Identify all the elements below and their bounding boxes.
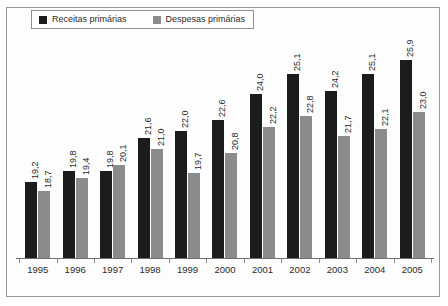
bar — [375, 129, 387, 258]
bar-column: 20,1 — [113, 165, 125, 258]
bar-value-label: 19,7 — [194, 152, 203, 170]
bar-value-label: 19,8 — [69, 150, 78, 168]
bar-group: 22,019,7 — [169, 36, 206, 258]
bar-value-label: 22,2 — [269, 106, 278, 124]
bar — [250, 94, 262, 258]
bar — [413, 112, 425, 258]
bar-column: 24,0 — [250, 94, 262, 258]
bar-column: 22,2 — [263, 127, 275, 258]
bar — [138, 138, 150, 258]
legend-item: Receitas primárias — [39, 15, 127, 24]
axis-label-1999: 1999 — [169, 263, 206, 276]
bar-column: 22,0 — [175, 131, 187, 258]
bar — [188, 173, 200, 259]
bar-value-label: 25,1 — [293, 54, 302, 72]
bar-column: 18,7 — [38, 191, 50, 258]
legend-item-label: Receitas primárias — [52, 15, 127, 24]
bar — [263, 127, 275, 258]
bar-value-label: 22,6 — [218, 99, 227, 117]
bar — [76, 178, 88, 258]
bar-value-label: 20,1 — [119, 145, 128, 163]
bar-value-label: 22,0 — [181, 110, 190, 128]
bar — [25, 182, 37, 258]
axis-label-2000: 2000 — [206, 263, 243, 276]
x-axis-labels: 1995199619971998199920002001200220032004… — [16, 263, 434, 276]
bar-group: 24,022,2 — [244, 36, 281, 258]
bar-column: 19,7 — [188, 173, 200, 259]
axis-label-2003: 2003 — [319, 263, 356, 276]
bar — [225, 153, 237, 259]
bar-value-label: 19,4 — [82, 157, 91, 175]
bar-groups: 19,218,719,819,419,820,121,621,022,019,7… — [16, 36, 434, 258]
bar-column: 19,4 — [76, 178, 88, 258]
axis-label-1997: 1997 — [94, 263, 131, 276]
axis-label-2005: 2005 — [394, 263, 431, 276]
bar-value-label: 24,0 — [256, 74, 265, 92]
bar — [362, 74, 374, 258]
bar-value-label: 21,6 — [144, 117, 153, 135]
bar — [63, 171, 75, 258]
bar — [113, 165, 125, 258]
bar-group: 19,820,1 — [94, 36, 131, 258]
bar-group: 19,218,7 — [19, 36, 56, 258]
bar-value-label: 19,2 — [31, 161, 40, 179]
bar — [325, 91, 337, 258]
legend-item: Despesas primárias — [153, 15, 246, 24]
bar-group: 24,221,7 — [319, 36, 356, 258]
bar-column: 19,8 — [100, 171, 112, 258]
bar-value-label: 25,1 — [368, 54, 377, 72]
bar-value-label: 22,8 — [306, 96, 315, 114]
plot-area: 19,218,719,819,419,820,121,621,022,019,7… — [16, 36, 434, 258]
axis-label-1998: 1998 — [131, 263, 168, 276]
bar-value-label: 22,1 — [381, 108, 390, 126]
bar-column: 25,1 — [362, 74, 374, 258]
bar-value-label: 18,7 — [44, 170, 53, 188]
bar — [400, 60, 412, 258]
bar — [338, 136, 350, 258]
axis-label-2002: 2002 — [281, 263, 318, 276]
bar — [212, 120, 224, 258]
bar-group: 19,819,4 — [56, 36, 93, 258]
bar-group: 25,923,0 — [394, 36, 431, 258]
bar-group: 25,122,1 — [356, 36, 393, 258]
bar-column: 19,8 — [63, 171, 75, 258]
axis-label-1996: 1996 — [56, 263, 93, 276]
legend-swatch-icon — [153, 16, 161, 24]
bar-value-label: 21,0 — [157, 128, 166, 146]
bar-column: 22,1 — [375, 129, 387, 258]
bar — [300, 116, 312, 258]
bar-column: 24,2 — [325, 91, 337, 258]
bar-column: 22,6 — [212, 120, 224, 258]
legend-item-label: Despesas primárias — [166, 15, 246, 24]
bar-column: 20,8 — [225, 153, 237, 259]
bar-column: 21,6 — [138, 138, 150, 258]
bar-group: 21,621,0 — [131, 36, 168, 258]
legend-swatch-icon — [39, 16, 47, 24]
bar-group: 22,620,8 — [206, 36, 243, 258]
bar — [38, 191, 50, 258]
bar-column: 21,7 — [338, 136, 350, 258]
bar-group: 25,122,8 — [281, 36, 318, 258]
bar-column: 25,9 — [400, 60, 412, 258]
bar — [175, 131, 187, 258]
axis-label-2001: 2001 — [244, 263, 281, 276]
bar — [151, 149, 163, 258]
bar-value-label: 23,0 — [419, 92, 428, 110]
bar-value-label: 20,8 — [231, 132, 240, 150]
chart-page: Receitas primáriasDespesas primárias 19,… — [0, 0, 448, 306]
bar-value-label: 25,9 — [406, 39, 415, 57]
chart-legend: Receitas primáriasDespesas primárias — [31, 10, 254, 29]
bar-column: 23,0 — [413, 112, 425, 258]
bar — [287, 74, 299, 258]
bar-column: 19,2 — [25, 182, 37, 258]
bar-value-label: 21,7 — [344, 116, 353, 134]
bar-column: 21,0 — [151, 149, 163, 258]
bar-value-label: 24,2 — [331, 70, 340, 88]
axis-label-1995: 1995 — [19, 263, 56, 276]
bar-column: 25,1 — [287, 74, 299, 258]
bar — [100, 171, 112, 258]
bar-column: 22,8 — [300, 116, 312, 258]
axis-label-2004: 2004 — [356, 263, 393, 276]
